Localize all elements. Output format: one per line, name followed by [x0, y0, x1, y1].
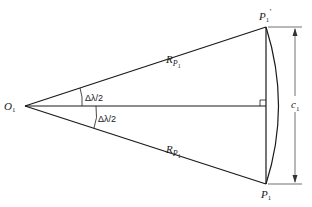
lower-radius-label: RP1 — [165, 143, 181, 159]
geodesic-chord-diagram: O1 P1′ P1 RP1 RP1 Δλ/2 Δλ/2 c1 — [0, 0, 312, 207]
lower-radius-line — [25, 106, 266, 184]
right-angle-marker — [260, 100, 266, 106]
upper-angle-arc — [80, 88, 82, 106]
lower-angle-arc — [94, 106, 97, 128]
bottom-point-label: P1 — [260, 188, 272, 202]
origin-label: O1 — [4, 100, 16, 114]
lower-angle-label: Δλ/2 — [98, 114, 116, 124]
dimension-arrow-up-icon — [293, 28, 298, 36]
upper-radius-line — [25, 27, 266, 106]
top-point-label: P1′ — [258, 8, 271, 24]
dimension-arrow-down-icon — [293, 175, 298, 183]
arc-curve — [266, 27, 279, 184]
upper-angle-label: Δλ/2 — [85, 93, 103, 103]
